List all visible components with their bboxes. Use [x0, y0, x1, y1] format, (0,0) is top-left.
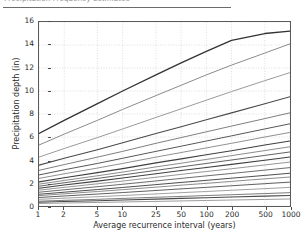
precipitation-frequency-chart: 0246810121416 1251025501002005001000 Pre…	[0, 11, 307, 236]
series-line	[39, 97, 290, 165]
x-tick-label: 1	[36, 211, 41, 219]
y-tick-label: 0	[12, 203, 34, 211]
series-line	[39, 152, 290, 186]
y-tick-mark	[48, 137, 51, 138]
y-tick-mark	[48, 21, 51, 22]
y-tick-mark	[48, 184, 51, 185]
plot-area	[38, 21, 291, 207]
x-tick-label: 10	[118, 211, 128, 219]
x-tick-label: 2	[61, 211, 66, 219]
series-line	[39, 73, 290, 158]
series-lines	[39, 22, 290, 206]
series-line	[39, 147, 290, 184]
y-tick-mark	[48, 161, 51, 162]
x-tick-label: 100	[199, 211, 213, 219]
truncated-header: Precipitation Frequency Estimates	[0, 0, 307, 11]
y-tick-mark	[48, 91, 51, 92]
y-tick-label: 16	[12, 17, 34, 25]
x-tick-label: 25	[151, 211, 161, 219]
screenshot-root: Precipitation Frequency Estimates 024681…	[0, 0, 307, 236]
series-line	[39, 182, 290, 197]
header-divider	[3, 7, 231, 8]
header-title-text: Precipitation Frequency Estimates	[4, 0, 130, 3]
series-line	[39, 31, 290, 133]
y-tick-mark	[48, 68, 51, 69]
y-tick-label: 2	[12, 180, 34, 188]
x-tick-label: 50	[176, 211, 186, 219]
y-tick-mark	[48, 44, 51, 45]
x-tick-label: 5	[95, 211, 100, 219]
y-axis-label: Precipitation depth (in)	[12, 44, 21, 164]
x-axis-label: Average recurrence interval (years)	[38, 221, 291, 230]
y-tick-mark	[48, 114, 51, 115]
x-tick-label: 500	[258, 211, 272, 219]
series-line	[39, 44, 290, 145]
x-tick-label: 200	[225, 211, 239, 219]
x-tick-label: 1000	[281, 211, 300, 219]
